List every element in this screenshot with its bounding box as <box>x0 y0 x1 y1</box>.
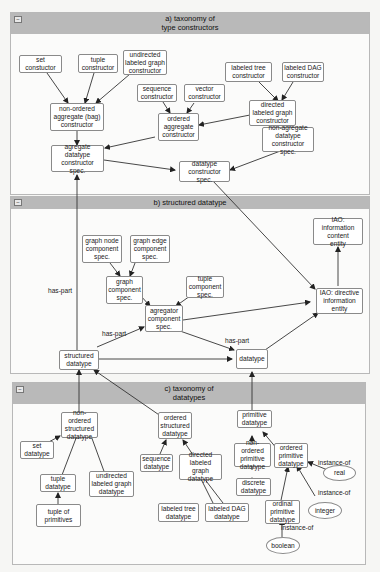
panel-header: a) taxonomy of type constructors <box>11 13 369 34</box>
node-vector-constructor[interactable]: vector constructor <box>184 84 225 102</box>
collapse-icon[interactable]: − <box>14 16 22 23</box>
node-tuple-of-primitives[interactable]: tuple of primitives <box>36 504 81 527</box>
node-labeled-tree-datatype[interactable]: labeled tree datatype <box>158 503 199 522</box>
node-discrete-datatype[interactable]: discrete datatype <box>236 478 271 496</box>
node-non-agregate-datatype-constructor-spec[interactable]: non-agregate datatype constructor spec. <box>262 127 314 152</box>
node-graph-edge-component-spec[interactable]: graph edge component spec. <box>130 235 170 263</box>
node-labeled-dag-datatype[interactable]: labeled DAG datatype <box>205 503 249 522</box>
node-non-ordered-primitive-datatype[interactable]: non-ordered primitive datatype <box>234 443 271 467</box>
node-tuple-datatype[interactable]: tuple datatype <box>40 474 76 492</box>
node-sequence-constructor[interactable]: sequence constructor <box>137 84 177 102</box>
node-ordered-primitive-datatype[interactable]: ordered primitive datatype <box>274 443 308 468</box>
node-real[interactable]: real <box>323 465 356 481</box>
node-set-constructor[interactable]: set constuctor <box>19 55 62 73</box>
node-non-ordered-structured-datatype[interactable]: non-ordered structured datatype <box>61 412 98 438</box>
edge-label-instance-of: instance-of <box>318 459 350 466</box>
node-agregator-component-spec[interactable]: agregator component spec. <box>145 305 183 332</box>
node-boolean[interactable]: boolean <box>266 537 300 554</box>
node-sequence-datatype[interactable]: sequence datatype <box>140 454 173 472</box>
node-datatype[interactable]: datatype <box>236 349 268 369</box>
node-labeled-tree-constructor[interactable]: labeled tree constructor <box>225 62 272 82</box>
node-graph-node-component-spec[interactable]: graph node component spec. <box>82 235 122 263</box>
node-undirected-labeled-graph-datatype[interactable]: undirected labeled graph datatype <box>89 471 134 497</box>
node-directed-labeled-graph-constructor[interactable]: directed labeled graph constructor <box>249 100 296 126</box>
edge-label-instance-of: instance-of <box>281 524 313 531</box>
node-non-ordered-aggregate-constructor[interactable]: non-ordered aggregate (bag) constructor <box>50 103 104 131</box>
node-labeled-dag-constructor[interactable]: labeled DAG constructor <box>282 62 324 82</box>
edge-label-has-part: has-part <box>102 330 126 337</box>
node-set-datatype[interactable]: set datatype <box>20 441 54 459</box>
edge-label-instance-of: instance-of <box>318 489 350 496</box>
node-tuple-constructor[interactable]: tuple constructor <box>78 54 118 73</box>
node-iao-directive-information-entity[interactable]: IAO: directive information entity <box>316 288 363 314</box>
node-primitive-datatype[interactable]: primitive datatype <box>237 410 272 428</box>
node-datatype-constructor-spec[interactable]: datatype constructor spec. <box>179 161 230 182</box>
node-integer[interactable]: integer <box>308 502 342 519</box>
node-directed-labeled-graph-datatype[interactable]: directed labeled graph datatype <box>179 454 222 480</box>
collapse-icon[interactable]: − <box>16 386 24 393</box>
edge-label-has-part: has-part <box>48 287 72 294</box>
node-ordered-aggregate-constructor[interactable]: ordered aggregate constructor <box>158 113 199 141</box>
collapse-icon[interactable]: − <box>14 199 22 206</box>
node-structured-datatype[interactable]: structured datatype <box>59 350 99 370</box>
edge-label-has-part: has-part <box>225 337 249 344</box>
panel-header: b) structured datatype <box>11 197 369 209</box>
panel-header: c) taxonomy of datatypes <box>13 383 365 404</box>
node-iao-information-content-entity[interactable]: IAO: information content entity <box>313 218 363 245</box>
node-ordered-structured-datatype[interactable]: ordered structured datatype <box>158 412 192 439</box>
node-tuple-component-spec[interactable]: tuple component spec. <box>186 276 224 298</box>
node-graph-component-spec[interactable]: graph component spec. <box>106 276 143 304</box>
node-agregate-datatype-constructor-spec[interactable]: agregate datatype constructor spec. <box>51 145 104 172</box>
node-undirected-labeled-graph-constructor[interactable]: undirected labeled graph constructor <box>123 50 167 75</box>
node-ordinal-primitive-datatype[interactable]: ordinal primitive datatype <box>265 500 300 524</box>
